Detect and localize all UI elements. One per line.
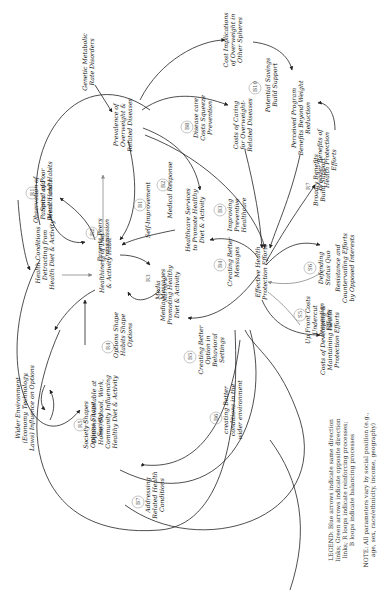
loop-label-b4: Creating BetterMessages (226, 236, 241, 286)
svg-text:B8: B8 (184, 122, 190, 130)
note-text: NOTE: All parameters vary by social posi… (362, 413, 377, 568)
arrow-wider-options (41, 385, 45, 410)
svg-text:S6: S6 (307, 263, 313, 271)
node-costs-caring: Costs of Caringfor Overweight-Related Di… (232, 98, 253, 153)
loop-label-b8: Disease careCosts SqueezePrevention (192, 95, 213, 141)
node-resistance: Resistance andCountervailing Effortsby O… (334, 233, 356, 303)
arrow-broader-perceived (318, 103, 335, 130)
loop-label-b3: ImprovingPreventiveHealthcare (226, 197, 247, 233)
arrow-observation-healthiness (50, 215, 85, 243)
loop-s6: S6 (304, 262, 316, 274)
arrow-prevalence-healthiness (120, 140, 135, 240)
node-effective-efforts: Effective HealthProtection Efforts (254, 244, 269, 301)
loop-label-r3: MediaMirrors (154, 278, 168, 303)
svg-text:S5: S5 (297, 310, 303, 318)
node-healthcare-services: Healthcare Servicesto Promote HealthyDie… (184, 188, 206, 253)
arrow-prevalence-costimpl (140, 40, 225, 100)
arrow-to-healthcond (18, 200, 30, 270)
loop-label-b1: Self-Improvement (144, 181, 152, 238)
node-genetic: Genetic MetabolicRate Disorders (81, 33, 95, 91)
node-cost-implications: Cost Implicationsof Overweight inOther S… (222, 13, 244, 68)
legend-text: LEGEND: Blue arrows indicate same direct… (327, 418, 356, 562)
arrow-genetic-prevalence (95, 85, 112, 112)
arrow-prevalence-costscaring (142, 96, 228, 110)
node-perceived-benefits: Perceived ProgramBenefits Beyond WeightR… (290, 80, 311, 156)
arrow-effective-resistance (266, 243, 320, 265)
svg-text:B3: B3 (217, 205, 223, 213)
arrow-healthiness-media (120, 255, 150, 265)
loop-label-r1: Spiral of PoorHealth and Habits (39, 161, 53, 219)
loop-r3: R3 (145, 274, 151, 282)
loop-label-r7: Broadly BenefitsBuild Support (312, 154, 327, 207)
loop-b10: B10 (249, 80, 261, 94)
loop-label-b10: Potential SavingsBuild Support (264, 58, 279, 113)
arrow-effective-broader (266, 185, 315, 262)
loop-r7: R7 (305, 182, 311, 190)
loop-b5: B5 (184, 351, 196, 363)
svg-text:B1: B1 (137, 200, 143, 208)
arrow-healthiness-options (55, 290, 95, 330)
loop-label-r4: Options ShapeHabits ShapeOptions (112, 312, 134, 358)
node-wider-environment: Wider Environment(Economy, Technology,La… (14, 365, 36, 452)
node-prevalence: Prevalence ofOverweight &Related Disease… (112, 98, 133, 153)
svg-text:B10: B10 (252, 80, 258, 92)
arc-lower-right (270, 440, 300, 590)
svg-text:B4: B4 (217, 260, 223, 268)
loop-b4: B4 (214, 259, 226, 271)
arrow-options-wider (50, 390, 54, 420)
loop-label-b6: creating Betterconditions in thewider en… (222, 380, 243, 440)
svg-text:R7: R7 (305, 182, 311, 190)
node-health-conditions: Health ConditionsDetracting fromHealth D… (34, 220, 56, 291)
svg-text:R2: R2 (89, 228, 95, 236)
causal-loop-diagram: R1 R2 R3 R4 R5 B1 B2 B3 B4 B5 B6 B7 B8 B… (0, 0, 385, 592)
loop-label-b5: Creating BetterOption inBehavioralSettin… (197, 324, 226, 374)
loop-label-b2: Medical Response (166, 161, 174, 219)
loop-label-s6: DefendingStatus Quo (317, 250, 331, 285)
loop-b3: B3 (214, 204, 226, 216)
svg-text:B6: B6 (213, 413, 219, 421)
arrow-perceived-effective (270, 155, 300, 248)
loop-label-b7: AddressingRelated HealthConditions (144, 471, 165, 519)
svg-text:B7: B7 (135, 497, 141, 505)
loop-b6: B6 (210, 412, 222, 424)
svg-text:R3: R3 (145, 274, 151, 282)
loop-b7: B7 (132, 496, 144, 508)
svg-text:R4: R4 (105, 342, 111, 350)
svg-text:B5: B5 (187, 352, 193, 360)
arrow-effective-media (188, 275, 258, 318)
arrow-costsdev-effective (268, 292, 300, 325)
loop-label-r2: Parents PeersTransmission (96, 218, 110, 262)
